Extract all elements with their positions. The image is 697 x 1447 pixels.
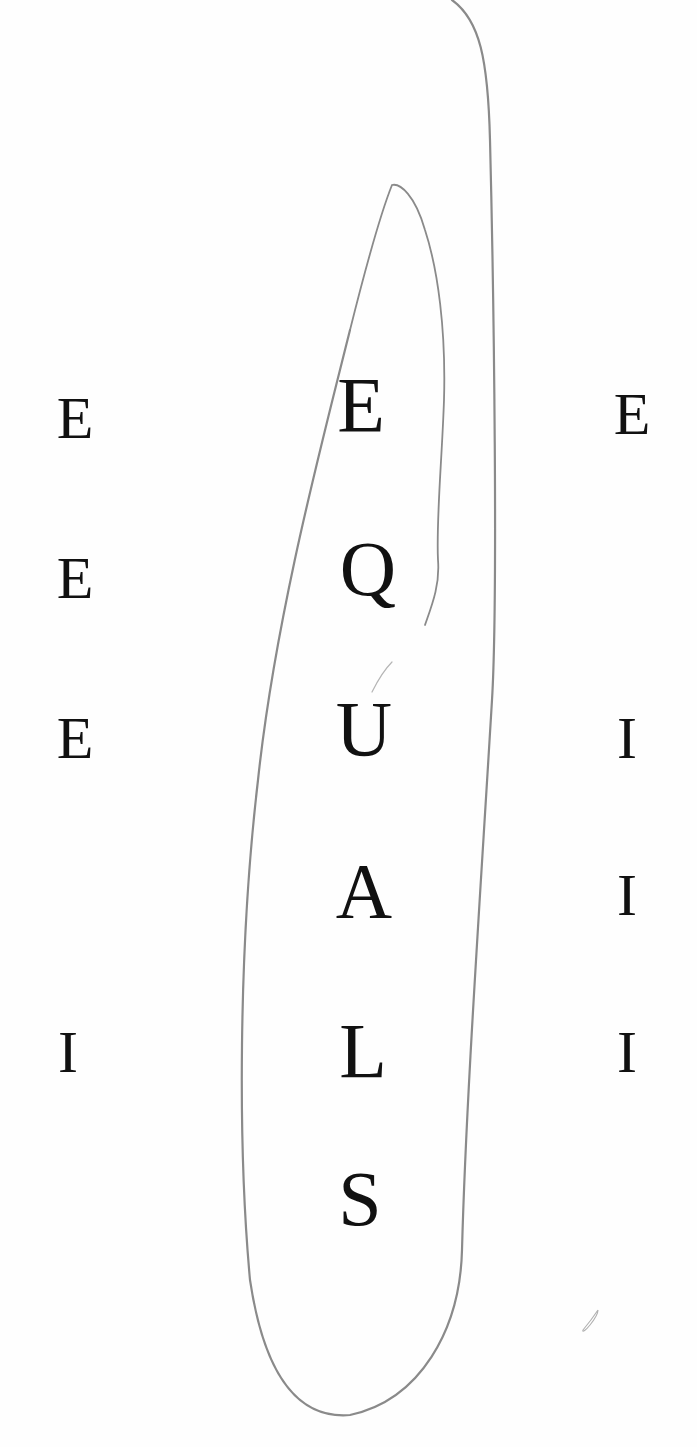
artwork-canvas: E E E I E Q U A L S E I I I [0, 0, 697, 1447]
left-letter-1: E [57, 388, 94, 448]
right-letter-3: I [617, 865, 637, 925]
right-letter-4: I [617, 1022, 637, 1082]
right-letter-2: I [617, 708, 637, 768]
center-letter-u: U [336, 690, 392, 768]
center-letter-l: L [339, 1012, 387, 1090]
center-letter-e: E [337, 366, 385, 444]
right-letter-1: E [614, 384, 651, 444]
left-letter-3: E [57, 708, 94, 768]
center-letter-q: Q [340, 530, 396, 608]
left-letter-4: I [58, 1022, 78, 1082]
left-letter-2: E [57, 548, 94, 608]
stray-mark [583, 1310, 598, 1331]
center-letter-s: S [338, 1160, 381, 1238]
center-letter-a: A [336, 852, 392, 930]
